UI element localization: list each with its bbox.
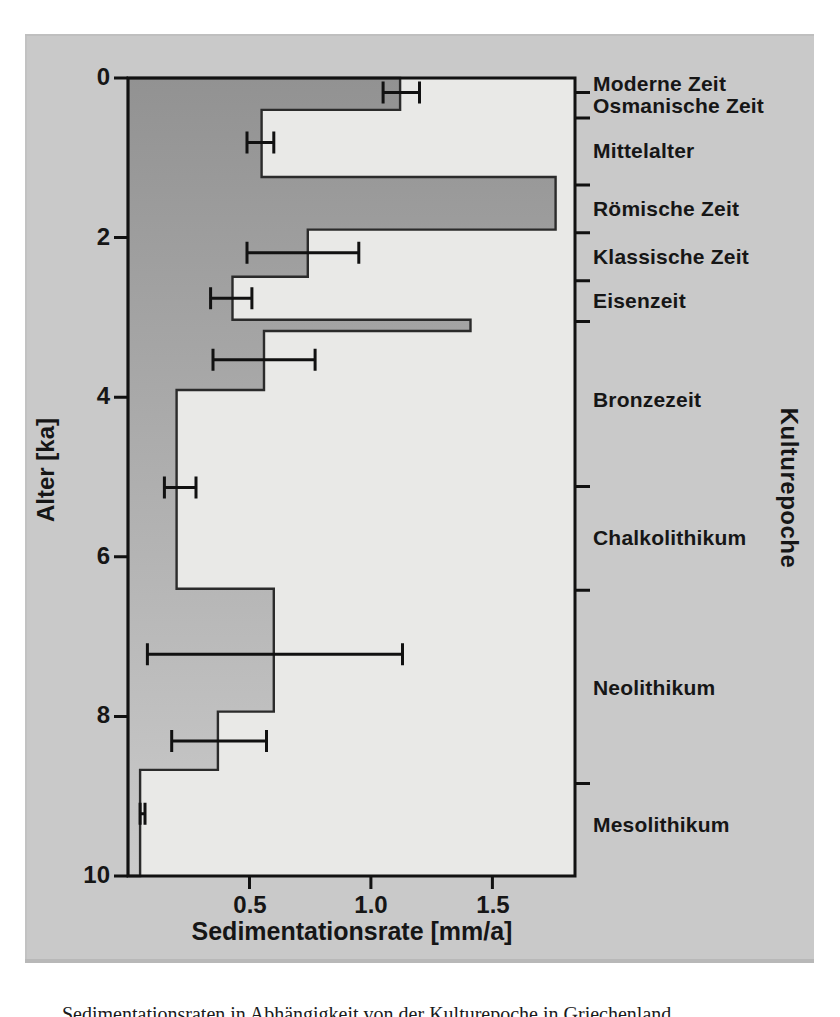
epoch-label-chalkolithikum: Chalkolithikum <box>593 526 746 550</box>
x-axis-title: Sedimentationsrate [mm/a] <box>192 917 513 946</box>
sedimentation-chart <box>0 0 840 1017</box>
epoch-label-mesolithikum: Mesolithikum <box>593 813 730 837</box>
x-tick-label-1.0: 1.0 <box>354 891 387 919</box>
epoch-label-osmanische-zeit: Osmanische Zeit <box>593 94 764 118</box>
y-tick-label-0: 0 <box>64 63 110 91</box>
epoch-label-neolithikum: Neolithikum <box>593 676 715 700</box>
y-tick-label-4: 4 <box>64 382 110 410</box>
y-tick-label-2: 2 <box>64 223 110 251</box>
x-tick-label-1.5: 1.5 <box>476 891 509 919</box>
y-tick-label-6: 6 <box>64 542 110 570</box>
epoch-label-roemische-zeit: Römische Zeit <box>593 197 739 221</box>
x-tick-label-0.5: 0.5 <box>233 891 266 919</box>
epoch-label-eisenzeit: Eisenzeit <box>593 289 686 313</box>
epoch-label-moderne-zeit: Moderne Zeit <box>593 72 726 96</box>
epoch-label-bronzezeit: Bronzezeit <box>593 388 701 412</box>
y-tick-label-8: 8 <box>64 701 110 729</box>
epoch-label-klassische-zeit: Klassische Zeit <box>593 245 749 269</box>
y-axis-title: Alter [ka] <box>32 365 60 575</box>
caption-fragment-clipped: Sedimentationsraten in Abhängigkeit von … <box>62 1001 840 1017</box>
y-tick-label-10: 10 <box>64 861 110 889</box>
right-axis-title: Kulturepoche <box>775 373 803 603</box>
epoch-label-mittelalter: Mittelalter <box>593 139 694 163</box>
